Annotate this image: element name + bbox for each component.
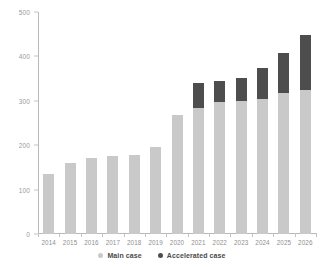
y-axis-tick-label: 300 (0, 97, 30, 104)
bar-segment-main-case[interactable] (257, 99, 268, 234)
bar-column[interactable] (257, 68, 268, 234)
y-axis-tick-label: 500 (0, 9, 30, 16)
chart-legend: Main case Accelerated case (0, 252, 324, 259)
bar-column[interactable] (214, 81, 225, 234)
bars-layer (38, 12, 316, 234)
legend-item-accelerated-case[interactable]: Accelerated case (158, 252, 226, 259)
x-axis-tick-mark (316, 233, 317, 237)
bar-segment-main-case[interactable] (107, 156, 118, 234)
legend-label-accelerated-case: Accelerated case (167, 252, 226, 259)
bar-column[interactable] (193, 83, 204, 234)
x-axis-tick-label: 2026 (292, 239, 318, 246)
bar-segment-main-case[interactable] (172, 115, 183, 234)
legend-item-main-case[interactable]: Main case (98, 252, 141, 259)
bar-segment-main-case[interactable] (278, 93, 289, 234)
x-axis-tick-mark (209, 233, 210, 237)
bar-column[interactable] (300, 35, 311, 234)
bar-segment-accelerated-case[interactable] (257, 68, 268, 99)
bar-column[interactable] (43, 174, 54, 234)
x-axis-tick-mark (295, 233, 296, 237)
bar-segment-accelerated-case[interactable] (236, 78, 247, 101)
bar-column[interactable] (172, 115, 183, 234)
bar-column[interactable] (236, 78, 247, 234)
bar-segment-accelerated-case[interactable] (214, 81, 225, 102)
bar-segment-main-case[interactable] (43, 174, 54, 234)
x-axis-tick-mark (188, 233, 189, 237)
bar-column[interactable] (107, 156, 118, 234)
bar-segment-main-case[interactable] (129, 155, 140, 234)
x-axis-tick-mark (145, 233, 146, 237)
bar-segment-main-case[interactable] (236, 101, 247, 234)
bar-segment-main-case[interactable] (193, 108, 204, 234)
x-axis-tick-mark (273, 233, 274, 237)
circle-marker-accelerated-icon (158, 253, 163, 258)
x-axis-tick-mark (38, 233, 39, 237)
x-axis-tick-mark (124, 233, 125, 237)
y-axis-tick-label: 400 (0, 53, 30, 60)
bar-segment-main-case[interactable] (86, 158, 97, 234)
bar-column[interactable] (150, 147, 161, 234)
stacked-bar-chart: 0100200300400500 20142015201620172018201… (0, 0, 324, 267)
bar-column[interactable] (129, 155, 140, 234)
x-axis-tick-mark (59, 233, 60, 237)
y-axis-tick-label: 100 (0, 186, 30, 193)
circle-marker-main-icon (98, 253, 103, 258)
x-axis-tick-mark (252, 233, 253, 237)
x-axis-tick-mark (102, 233, 103, 237)
x-axis-tick-mark (81, 233, 82, 237)
bar-segment-accelerated-case[interactable] (300, 35, 311, 90)
legend-label-main-case: Main case (107, 252, 141, 259)
bar-column[interactable] (65, 163, 76, 234)
bar-segment-main-case[interactable] (214, 102, 225, 234)
x-axis-tick-mark (166, 233, 167, 237)
y-axis-tick-label: 0 (0, 231, 30, 238)
x-axis-tick-mark (230, 233, 231, 237)
bar-segment-main-case[interactable] (65, 163, 76, 234)
bar-segment-accelerated-case[interactable] (278, 53, 289, 93)
bar-segment-main-case[interactable] (150, 147, 161, 234)
bar-column[interactable] (278, 53, 289, 234)
bar-segment-main-case[interactable] (300, 90, 311, 234)
y-axis-tick-label: 200 (0, 142, 30, 149)
bar-segment-accelerated-case[interactable] (193, 83, 204, 108)
bar-column[interactable] (86, 158, 97, 234)
